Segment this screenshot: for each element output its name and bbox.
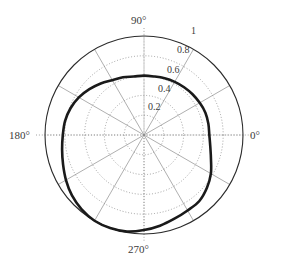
- grid-spoke-330: [144, 135, 230, 185]
- angle-label-270: 270°: [128, 243, 149, 255]
- polar-plot-figure: 90° 0° 180° 270° 0.2 0.4 0.6 0.8 1: [0, 0, 282, 269]
- angle-label-0: 0°: [250, 129, 260, 141]
- grid-spoke-150: [58, 86, 144, 136]
- angle-label-180: 180°: [9, 129, 30, 141]
- axis-cross-lines: [36, 28, 252, 242]
- grid-spoke-240: [95, 135, 145, 221]
- radial-label-1: 1: [191, 25, 196, 36]
- grid-spoke-120: [95, 49, 145, 135]
- radial-label-0-4: 0.4: [158, 83, 171, 94]
- polar-chart-canvas: [0, 0, 282, 269]
- radial-label-0-6: 0.6: [167, 64, 180, 75]
- radial-label-0-2: 0.2: [148, 101, 161, 112]
- radial-label-0-8: 0.8: [177, 44, 190, 55]
- angle-label-90: 90°: [131, 14, 146, 26]
- grid-spoke-210: [58, 135, 144, 185]
- grid-spoke-300: [144, 135, 194, 221]
